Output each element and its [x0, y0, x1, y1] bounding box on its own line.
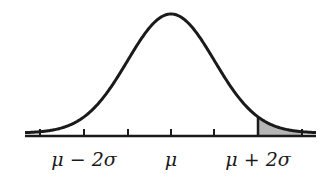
label-mu-plus-2sigma: μ + 2σ — [225, 148, 291, 170]
label-mu-minus-2sigma: μ − 2σ — [51, 148, 117, 170]
label-mu: μ — [165, 148, 177, 170]
bell-curve — [25, 14, 316, 133]
normal-distribution-diagram: μ − 2σ μ μ + 2σ — [0, 0, 328, 178]
